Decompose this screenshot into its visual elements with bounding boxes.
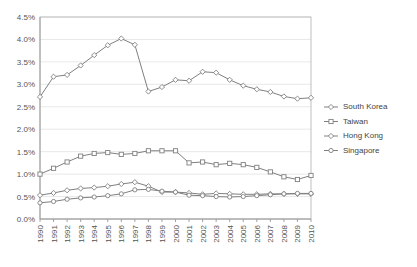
x-axis-tick-labels: 1990199119921993199419951996199719981999…: [36, 224, 316, 242]
data-point-marker: [132, 42, 137, 47]
x-axis-tick-label: 1994: [90, 224, 99, 242]
data-point-marker: [241, 83, 246, 88]
x-axis-tick-label: 2006: [253, 224, 262, 242]
x-axis-tick-label: 2003: [212, 224, 221, 242]
data-point-marker: [214, 194, 218, 198]
data-point-marker: [187, 161, 191, 165]
data-point-marker: [308, 95, 313, 100]
x-axis-tick-label: 2009: [293, 224, 302, 242]
y-axis-tick-label: 3.5%: [17, 58, 35, 67]
x-axis-tick-label: 1992: [63, 224, 72, 242]
data-point-marker: [119, 152, 123, 156]
data-point-marker: [329, 148, 333, 152]
x-axis-tick-label: 1998: [144, 224, 153, 242]
y-axis-tick-label: 3.0%: [17, 80, 35, 89]
data-point-marker: [228, 161, 232, 165]
data-point-marker: [79, 154, 83, 158]
data-point-marker: [160, 149, 164, 153]
data-point-marker: [92, 151, 96, 155]
x-axis-tick-label: 1993: [77, 224, 86, 242]
data-point-marker: [146, 149, 150, 153]
data-point-marker: [159, 84, 164, 89]
y-axis-tick-label: 0.0%: [17, 215, 35, 224]
line-chart: 0.0%0.5%1.0%1.5%2.0%2.5%3.0%3.5%4.0%4.5%…: [0, 0, 417, 267]
y-axis-tick-label: 2.5%: [17, 103, 35, 112]
data-point-marker: [255, 165, 259, 169]
data-point-marker: [268, 89, 273, 94]
x-axis-tick-label: 2002: [199, 224, 208, 242]
legend-item-label[interactable]: Hong Kong: [343, 131, 383, 140]
x-axis-tick-label: 1995: [104, 224, 113, 242]
series-taiwan: [38, 149, 313, 182]
x-axis-tick-label: 2001: [185, 224, 194, 242]
x-axis-tick-label: 2008: [280, 224, 289, 242]
data-point-marker: [173, 190, 177, 194]
data-point-marker: [37, 193, 42, 198]
data-point-marker: [146, 89, 151, 94]
x-axis-tick-label: 2007: [266, 224, 275, 242]
data-point-marker: [281, 94, 286, 99]
data-point-marker: [106, 150, 110, 154]
data-point-marker: [254, 87, 259, 92]
data-point-marker: [282, 192, 286, 196]
y-axis-tick-labels: 0.0%0.5%1.0%1.5%2.0%2.5%3.0%3.5%4.0%4.5%: [17, 13, 35, 224]
data-point-marker: [79, 196, 83, 200]
data-point-marker: [282, 175, 286, 179]
series-south-korea: [37, 36, 313, 101]
data-point-marker: [227, 77, 232, 82]
x-axis-tick-label: 1991: [50, 224, 59, 242]
data-point-marker: [241, 194, 245, 198]
data-point-marker: [268, 193, 272, 197]
data-point-marker: [106, 194, 110, 198]
data-point-marker: [173, 77, 178, 82]
data-point-marker: [65, 188, 70, 193]
chart-container: 0.0%0.5%1.0%1.5%2.0%2.5%3.0%3.5%4.0%4.5%…: [0, 0, 417, 267]
data-point-marker: [228, 195, 232, 199]
data-point-marker: [51, 190, 56, 195]
y-axis-tick-label: 2.0%: [17, 125, 35, 134]
chart-legend: South KoreaTaiwanHong KongSingapore: [324, 102, 388, 155]
x-axis-tick-label: 2000: [172, 224, 181, 242]
y-axis-tick-label: 1.5%: [17, 148, 35, 157]
data-point-marker: [214, 163, 218, 167]
data-point-marker: [65, 160, 69, 164]
data-point-marker: [133, 151, 137, 155]
x-axis-tick-label: 2010: [307, 224, 316, 242]
legend-item-label[interactable]: South Korea: [343, 102, 388, 111]
y-axis-tick-label: 4.5%: [17, 13, 35, 22]
y-axis-tick-label: 1.0%: [17, 170, 35, 179]
data-point-marker: [201, 194, 205, 198]
data-point-marker: [295, 177, 299, 181]
y-axis-tick-label: 4.0%: [17, 35, 35, 44]
y-axis-tick-label: 0.5%: [17, 193, 35, 202]
data-point-marker: [160, 189, 164, 193]
data-point-marker: [92, 195, 96, 199]
data-point-marker: [187, 193, 191, 197]
data-point-marker: [214, 70, 219, 75]
legend-item-label[interactable]: Singapore: [343, 146, 380, 155]
data-point-marker: [132, 180, 137, 185]
data-point-marker: [255, 194, 259, 198]
data-point-marker: [295, 96, 300, 101]
data-point-marker: [201, 160, 205, 164]
data-point-marker: [309, 191, 313, 195]
data-point-marker: [186, 78, 191, 83]
data-point-marker: [92, 185, 97, 190]
data-point-marker: [119, 192, 123, 196]
data-point-marker: [309, 173, 313, 177]
data-point-marker: [268, 170, 272, 174]
data-point-marker: [51, 166, 55, 170]
data-point-marker: [119, 36, 124, 41]
data-point-marker: [328, 104, 333, 109]
legend-item-label[interactable]: Taiwan: [343, 117, 368, 126]
x-axis-tick-label: 1996: [117, 224, 126, 242]
data-point-marker: [105, 184, 110, 189]
data-point-marker: [65, 197, 69, 201]
data-point-marker: [51, 199, 55, 203]
data-point-marker: [328, 133, 333, 138]
x-axis-tick-label: 1999: [158, 224, 167, 242]
x-axis-tick-label: 1997: [131, 224, 140, 242]
data-point-marker: [241, 163, 245, 167]
data-point-marker: [38, 172, 42, 176]
data-point-marker: [173, 149, 177, 153]
